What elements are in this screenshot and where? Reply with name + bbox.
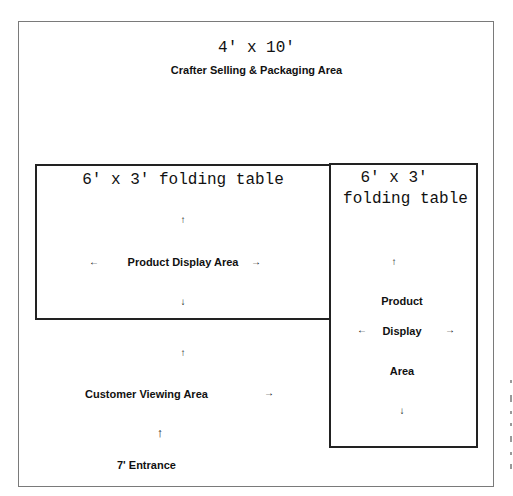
- scan-mark: [510, 452, 512, 455]
- right-area-label: Area: [329, 365, 475, 377]
- entrance-arrow-icon: ↑: [150, 425, 170, 440]
- right-table-label-1: 6' x 3': [329, 169, 459, 187]
- down-arrow-icon: ↓: [329, 405, 475, 416]
- scan-mark: [510, 380, 512, 383]
- scan-mark: [510, 436, 512, 442]
- right-arrow-icon: →: [251, 256, 261, 267]
- right-table-label-2: folding table: [333, 190, 478, 208]
- entrance-label: 7' Entrance: [117, 459, 176, 471]
- scan-mark: [510, 464, 512, 469]
- scan-mark: [510, 423, 512, 426]
- left-product-display-label: Product Display Area: [35, 256, 331, 268]
- right-arrow-icon: →: [264, 387, 274, 398]
- scan-mark: [510, 411, 512, 414]
- left-table-label: 6' x 3' folding table: [35, 171, 331, 189]
- down-arrow-icon: ↓: [35, 296, 331, 307]
- scan-mark: [510, 395, 512, 402]
- right-arrow-icon: →: [445, 324, 455, 335]
- up-arrow-icon: ↑: [329, 256, 459, 267]
- up-arrow-icon: ↑: [35, 347, 331, 358]
- crafter-area-title: Crafter Selling & Packaging Area: [0, 64, 513, 76]
- up-arrow-icon: ↑: [35, 214, 331, 225]
- customer-viewing-area-label: Customer Viewing Area: [85, 388, 208, 400]
- right-product-label: Product: [329, 295, 475, 307]
- booth-dimension: 4' x 10': [0, 39, 513, 57]
